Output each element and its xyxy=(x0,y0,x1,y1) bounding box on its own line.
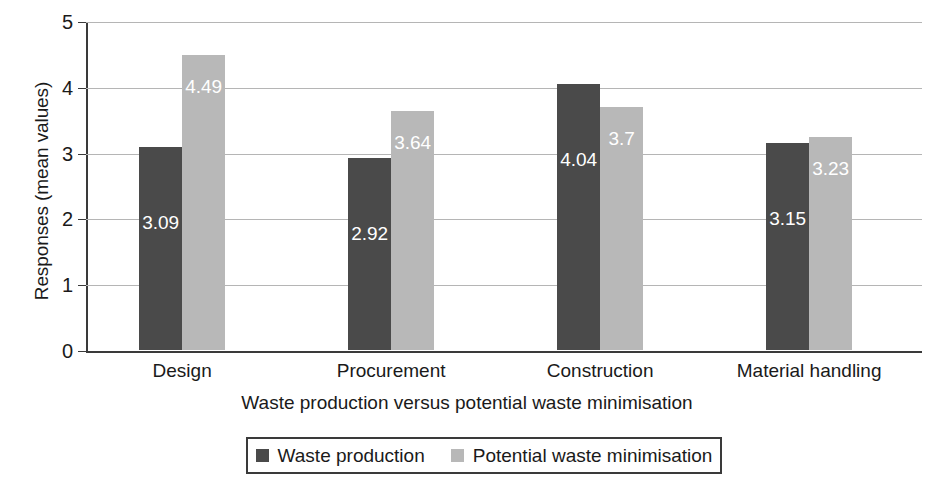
chart-legend: Waste productionPotential waste minimisa… xyxy=(246,437,722,474)
x-axis-category-label: Design xyxy=(78,360,287,382)
legend-label: Waste production xyxy=(278,446,425,465)
y-axis-tick-label: 4 xyxy=(62,78,73,98)
bar-group: 3.094.49 xyxy=(139,21,225,350)
legend-swatch-icon xyxy=(256,449,269,462)
bar: 2.92 xyxy=(348,158,391,350)
x-axis-title: Waste production versus potential waste … xyxy=(0,392,934,414)
bar: 3.09 xyxy=(139,147,182,350)
bar-value-label: 3.7 xyxy=(600,129,643,148)
bar-group: 4.043.7 xyxy=(557,21,643,350)
x-axis-category-label: Procurement xyxy=(287,360,496,382)
bar-value-label: 4.49 xyxy=(182,77,225,96)
y-axis-tick-mark xyxy=(78,219,86,220)
y-axis-tick-mark xyxy=(78,22,86,23)
bar-value-label: 3.09 xyxy=(139,213,182,232)
bar-value-label: 3.23 xyxy=(809,159,852,178)
legend-swatch-icon xyxy=(451,449,464,462)
y-axis-tick-label: 3 xyxy=(62,144,73,164)
y-axis-tick-mark xyxy=(78,351,86,352)
y-axis-tick-label: 0 xyxy=(62,341,73,361)
bar-group: 2.923.64 xyxy=(348,21,434,350)
x-axis-line xyxy=(86,351,922,353)
y-axis-tick-label: 2 xyxy=(62,209,73,229)
bar-group: 3.153.23 xyxy=(766,21,852,350)
bar: 3.23 xyxy=(809,137,852,350)
bar: 3.15 xyxy=(766,143,809,350)
bar: 4.04 xyxy=(557,84,600,350)
legend-entry: Potential waste minimisation xyxy=(451,446,713,465)
bar-value-label: 2.92 xyxy=(348,224,391,243)
x-axis-category-label: Construction xyxy=(496,360,705,382)
bar: 3.7 xyxy=(600,107,643,350)
y-axis-tick-mark xyxy=(78,285,86,286)
y-axis-title: Responses (mean values) xyxy=(31,21,53,361)
legend-label: Potential waste minimisation xyxy=(473,446,713,465)
y-axis-tick-mark xyxy=(78,88,86,89)
bar-chart: Responses (mean values) 012345 3.094.492… xyxy=(0,0,934,504)
y-axis-tick-label: 1 xyxy=(62,275,73,295)
x-axis-category-label: Material handling xyxy=(705,360,914,382)
y-axis-tick-mark xyxy=(78,154,86,155)
bar: 4.49 xyxy=(182,55,225,350)
bar-value-label: 4.04 xyxy=(557,150,600,169)
plot-area: 012345 3.094.492.923.644.043.73.153.23 D… xyxy=(86,22,922,352)
bar-value-label: 3.64 xyxy=(391,133,434,152)
bar: 3.64 xyxy=(391,111,434,351)
legend-entry: Waste production xyxy=(256,446,425,465)
y-axis-line xyxy=(86,22,88,353)
bar-value-label: 3.15 xyxy=(766,209,809,228)
y-axis-tick-label: 5 xyxy=(62,12,73,32)
